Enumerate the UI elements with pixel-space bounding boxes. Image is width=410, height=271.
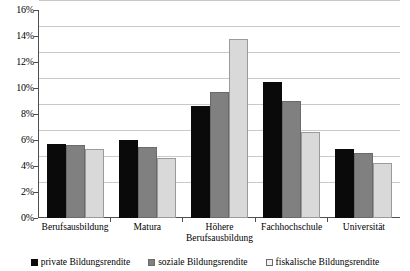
bar	[191, 106, 210, 218]
bar	[210, 92, 229, 218]
legend-swatch-icon	[266, 259, 273, 266]
legend-item[interactable]: fiskalische Bildungsrendite	[266, 257, 380, 267]
y-axis-tick-label: 4%	[0, 161, 34, 171]
y-axis-tick-mark	[34, 140, 38, 141]
bar	[138, 147, 157, 219]
y-axis-tick-mark	[34, 62, 38, 63]
x-axis-label: Matura	[111, 222, 183, 250]
y-axis-tick-label: 12%	[0, 57, 34, 67]
y-axis-tick-mark	[34, 192, 38, 193]
legend-swatch-icon	[31, 259, 38, 266]
x-axis-label: Höhere Berufsausbildung	[183, 222, 255, 250]
legend-item[interactable]: private Bildungsrendite	[31, 257, 130, 267]
bar-groups	[39, 10, 400, 218]
y-axis-tick-mark	[34, 88, 38, 89]
bar-group	[39, 10, 111, 218]
bar	[282, 101, 301, 218]
bar	[354, 153, 373, 218]
y-axis-tick-label: 8%	[0, 109, 34, 119]
bar	[66, 145, 85, 218]
legend-swatch-icon	[148, 259, 155, 266]
bar-group	[256, 10, 328, 218]
y-axis-tick-label: 2%	[0, 187, 34, 197]
bar	[373, 163, 392, 218]
chart-legend: private Bildungsrenditesoziale Bildungsr…	[0, 257, 410, 267]
y-axis-tick-label: 6%	[0, 135, 34, 145]
bar	[263, 82, 282, 219]
bar	[335, 149, 354, 218]
y-axis-tick-label: 10%	[0, 83, 34, 93]
y-axis-tick-label: 0%	[0, 213, 34, 223]
legend-label: soziale Bildungsrendite	[158, 257, 247, 267]
x-axis-label: Universität	[328, 222, 400, 250]
bar-chart: 0%2%4%6%8%10%12%14%16% BerufsausbildungM…	[0, 0, 410, 271]
x-axis-label: Berufsausbildung	[39, 222, 111, 250]
y-axis-tick-label: 16%	[0, 5, 34, 15]
y-axis-tick-label: 14%	[0, 31, 34, 41]
bar	[47, 144, 66, 218]
bar	[301, 132, 320, 218]
bar-group	[111, 10, 183, 218]
legend-item[interactable]: soziale Bildungsrendite	[148, 257, 247, 267]
y-axis-tick-mark	[34, 36, 38, 37]
bar	[157, 158, 176, 218]
x-axis-label: Fachhochschule	[256, 222, 328, 250]
gridline	[39, 0, 400, 1]
y-axis-tick-mark	[34, 166, 38, 167]
bar	[85, 149, 104, 218]
legend-label: fiskalische Bildungsrendite	[276, 257, 380, 267]
x-axis-labels: BerufsausbildungMaturaHöhere Berufsausbi…	[39, 222, 400, 250]
legend-label: private Bildungsrendite	[41, 257, 130, 267]
bar	[119, 140, 138, 218]
y-axis-tick-mark	[34, 114, 38, 115]
y-axis-tick-mark	[34, 218, 38, 219]
bar	[229, 39, 248, 218]
bar-group	[328, 10, 400, 218]
y-axis-tick-mark	[34, 10, 38, 11]
bar-group	[183, 10, 255, 218]
